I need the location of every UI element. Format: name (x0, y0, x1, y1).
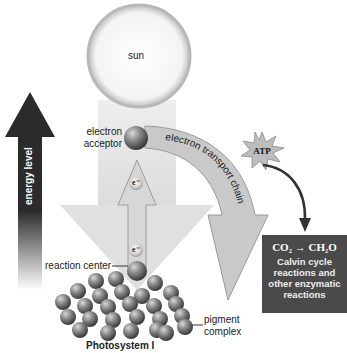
electron-acceptor-label: electron acceptor (80, 126, 122, 150)
electron-symbol: e⁻ (132, 244, 140, 256)
electron-symbol: e⁻ (132, 177, 140, 189)
equation-arrow-icon: → (295, 241, 306, 253)
pigment-complex-label-line2: complex (204, 326, 241, 338)
electron-acceptor-sphere-icon (124, 126, 148, 150)
photosystem-title: Photosystem I (86, 340, 154, 351)
pigment-complex-spheres (55, 271, 193, 341)
atp-to-calvin-arrow-icon (263, 165, 311, 232)
electron-acceptor-label-line1: electron (80, 126, 122, 138)
electron-acceptor-label-line2: acceptor (80, 138, 122, 150)
pigment-complex-label-line1: pigment (204, 314, 241, 326)
calvin-line: Calvin cycle (262, 256, 347, 267)
equation-left: CO₂ (272, 241, 292, 253)
pigment-complex-label: pigment complex (204, 314, 241, 338)
calvin-line: reactions (262, 289, 347, 300)
reaction-center-label: reaction center (45, 260, 111, 272)
calvin-cycle-box: CO₂ → CH₂O Calvin cycle reactions and ot… (262, 235, 347, 313)
calvin-line: other enzymatic (262, 278, 347, 289)
reaction-center-sphere-icon (127, 261, 147, 281)
atp-label: ATP (253, 146, 271, 156)
calvin-equation: CO₂ → CH₂O (262, 241, 347, 253)
calvin-line: reactions and (262, 267, 347, 278)
calvin-description: Calvin cycle reactions and other enzymat… (262, 256, 347, 300)
energy-level-label: energy level (23, 147, 34, 205)
sun-label: sun (128, 50, 144, 62)
equation-right: CH₂O (308, 241, 336, 253)
